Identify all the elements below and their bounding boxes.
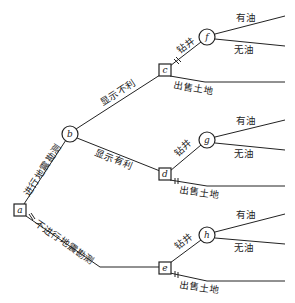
- label-e-sell: 出售土地: [179, 279, 220, 295]
- node-e-label: e: [162, 263, 167, 273]
- node-c: c: [159, 64, 171, 76]
- label-h-nooil: 无油: [234, 242, 254, 253]
- node-g: g: [199, 132, 215, 148]
- label-c-f: 钻井: [174, 35, 197, 56]
- label-d-sell: 出售土地: [179, 184, 220, 200]
- node-c-label: c: [162, 65, 167, 75]
- node-b-label: b: [67, 129, 73, 139]
- node-a-label: a: [17, 205, 22, 215]
- label-b-c: 显示不利: [98, 77, 138, 108]
- node-a: a: [14, 204, 26, 216]
- label-g-nooil: 无油: [234, 148, 254, 159]
- label-d-g: 钻井: [172, 137, 194, 159]
- edge-b-c: [76, 75, 160, 129]
- node-e: e: [159, 262, 171, 274]
- node-g-label: g: [204, 135, 210, 145]
- label-f-nooil: 无油: [234, 44, 254, 55]
- label-a-b: 进行地震勘测: [21, 142, 63, 198]
- node-h: h: [199, 227, 215, 243]
- label-a-e: 不进行地震勘测: [33, 218, 97, 267]
- node-h-label: h: [204, 230, 210, 240]
- node-d: d: [159, 168, 171, 180]
- decision-tree-diagram: a b c d e f g h 进行地震勘测 不进行地震勘测 显示不利 显示有利…: [0, 0, 295, 303]
- node-b: b: [62, 126, 78, 142]
- label-b-d: 显示有利: [93, 147, 134, 172]
- label-h-oil: 有油: [236, 209, 256, 220]
- node-f: f: [199, 29, 215, 45]
- label-e-h: 钻井: [172, 230, 194, 251]
- label-f-oil: 有油: [236, 12, 256, 23]
- node-d-label: d: [162, 169, 168, 179]
- label-g-oil: 有油: [236, 115, 256, 126]
